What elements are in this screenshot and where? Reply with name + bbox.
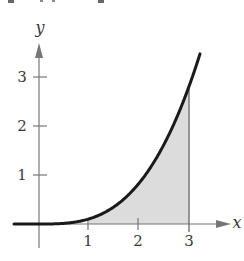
y-axis-label: y — [34, 18, 45, 37]
shaded-area — [89, 86, 189, 224]
x-tick-label-1: 1 — [83, 232, 93, 250]
y-tick-label-2: 2 — [17, 117, 27, 135]
y-ticks — [33, 77, 47, 175]
y-tick-label-3: 3 — [17, 68, 27, 86]
y-tick-label-1: 1 — [17, 166, 27, 184]
y-axis — [35, 43, 43, 248]
x-tick-label-2: 2 — [133, 232, 143, 250]
x-axis-arrow-icon — [216, 220, 231, 228]
y-axis-arrow-icon — [35, 43, 43, 58]
x-axis-label: x — [232, 213, 241, 232]
x-tick-label-3: 3 — [184, 232, 194, 250]
top-cropped-text — [8, 0, 104, 3]
area-chart: 1 2 3 3 2 1 x y — [0, 0, 244, 261]
